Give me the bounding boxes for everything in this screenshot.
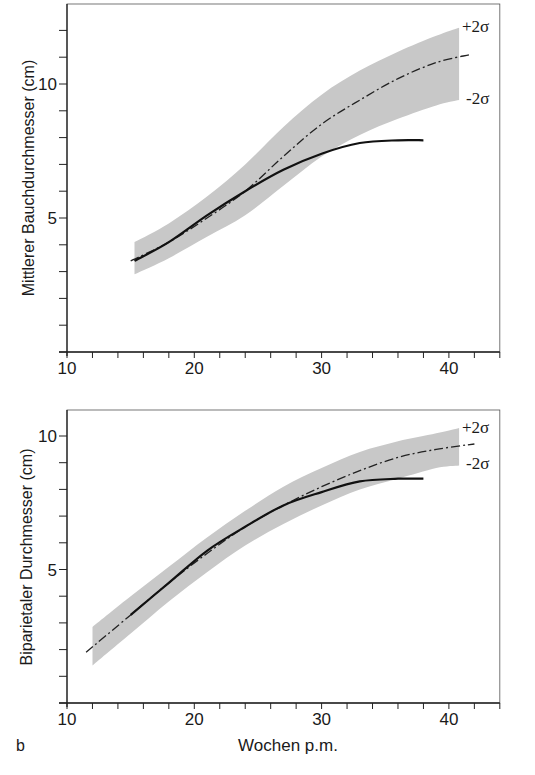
figure-canvas: 10203040510 Mittlerer Bauchdurchmesser (… — [0, 0, 535, 775]
chart-biparietaler-durchmesser: 10203040510 Biparietaler Durchmesser (cm… — [18, 410, 500, 729]
y-axis-title: Biparietaler Durchmesser (cm) — [18, 449, 35, 666]
svg-text:20: 20 — [185, 710, 204, 729]
svg-text:30: 30 — [312, 710, 331, 729]
sigma-band — [135, 28, 460, 275]
svg-text:40: 40 — [439, 710, 458, 729]
sigma-band — [93, 428, 460, 666]
chart-bauchdurchmesser: 10203040510 Mittlerer Bauchdurchmesser (… — [20, 4, 500, 378]
panel-label: b — [16, 737, 25, 754]
svg-text:5: 5 — [48, 209, 57, 228]
y-axis-title: Mittlerer Bauchdurchmesser (cm) — [20, 60, 37, 297]
svg-text:40: 40 — [439, 359, 458, 378]
svg-text:30: 30 — [312, 359, 331, 378]
plus-2-sigma-label: +2σ — [462, 418, 489, 437]
x-axis-title: Wochen p.m. — [238, 736, 338, 755]
svg-text:5: 5 — [48, 561, 57, 580]
minus-2-sigma-label: -2σ — [466, 89, 489, 108]
svg-text:10: 10 — [38, 75, 57, 94]
minus-2-sigma-label: -2σ — [466, 454, 489, 473]
plus-2-sigma-label: +2σ — [462, 17, 489, 36]
svg-text:10: 10 — [58, 710, 77, 729]
svg-text:10: 10 — [38, 427, 57, 446]
svg-text:10: 10 — [58, 359, 77, 378]
svg-text:20: 20 — [185, 359, 204, 378]
